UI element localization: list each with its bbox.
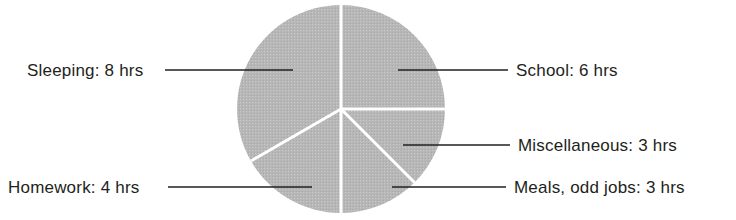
slice-label-meals-odd-jobs: Meals, odd jobs: 3 hrs [514,179,685,196]
pie-slice [341,5,445,109]
slice-label-miscellaneous: Miscellaneous: 3 hrs [518,137,677,154]
slice-label-homework: Homework: 4 hrs [8,179,139,196]
slice-label-sleeping: Sleeping: 8 hrs [27,62,143,79]
pie-chart-figure: Sleeping: 8 hrs Homework: 4 hrs School: … [0,0,736,220]
slice-label-school: School: 6 hrs [516,62,618,79]
